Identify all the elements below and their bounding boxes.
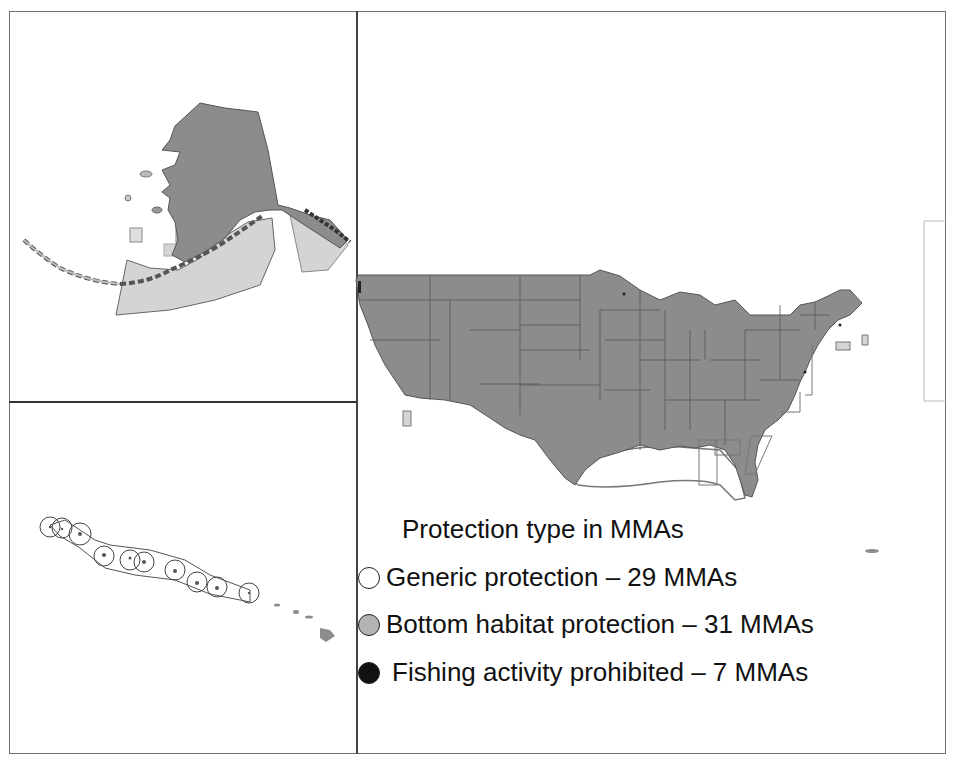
white-circle-icon [358,567,380,589]
legend-item-bottom-habitat: Bottom habitat protection – 31 MMAs [358,609,814,640]
nunivak-island [152,207,162,213]
black-circle-icon [358,662,380,684]
legend-item-generic: Generic protection – 29 MMAs [358,562,737,593]
conus-panel [356,221,946,553]
legend-item-fishing-prohibited: Fishing activity prohibited – 7 MMAs [358,657,808,688]
gray-circle-icon [358,614,380,636]
st-lawrence-island [140,171,152,177]
map-canvas [0,0,953,765]
alaska-panel [24,103,350,315]
legend-title: Protection type in MMAs [402,514,684,545]
legend-label: Generic protection – 29 MMAs [386,562,737,593]
island [125,195,131,201]
legend-label: Fishing activity prohibited – 7 MMAs [392,657,808,688]
atlantic-offshore-zone-outline [924,221,946,401]
main-hawaiian-islands [274,604,335,643]
legend-label: Bottom habitat protection – 31 MMAs [386,609,814,640]
puerto-rico [865,549,879,553]
hawaii-panel [40,517,335,642]
alaska-island-box [130,228,142,242]
